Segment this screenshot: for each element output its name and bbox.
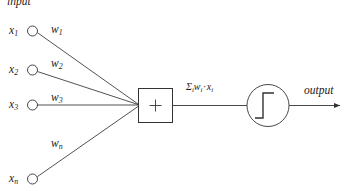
weight-label-w2-sub: 2: [59, 62, 63, 71]
weight-label-wn: wn: [51, 138, 63, 151]
input-label-x1: x1: [9, 25, 18, 38]
weight-label-wn-sub: n: [59, 142, 63, 151]
weight-label-w1-sub: 1: [59, 28, 63, 37]
weight-label-w2: w2: [51, 58, 63, 71]
weight-label-w3-var: w: [51, 91, 59, 103]
weight-label-w1: w1: [51, 24, 63, 37]
input-label-xn-sub: n: [14, 177, 18, 186]
formula-input-sub: i: [211, 86, 213, 93]
input-node-x1: [28, 26, 38, 36]
input-label-x1-sub: 1: [14, 29, 18, 38]
input-section-label: input: [7, 0, 31, 8]
activation-circle: [247, 85, 289, 127]
weight-label-w1-var: w: [51, 23, 59, 35]
weight-label-wn-var: w: [51, 137, 59, 149]
input-nodes: [28, 26, 38, 184]
weight-label-w3: w3: [51, 92, 63, 105]
input-label-x3: x3: [9, 99, 18, 112]
summation-formula: Σiwi·xi: [186, 82, 213, 94]
output-label-text: output: [304, 84, 333, 96]
input-node-x3: [28, 100, 38, 110]
weight-label-w2-var: w: [51, 57, 59, 69]
input-section-label-text: input: [7, 0, 31, 7]
weight-label-w3-sub: 3: [59, 96, 63, 105]
input-label-x2: x2: [9, 64, 18, 77]
input-label-x3-sub: 3: [14, 103, 18, 112]
input-label-xn: xn: [9, 173, 18, 186]
input-label-x2-sub: 2: [14, 68, 18, 77]
perceptron-diagram: input x1 x2 x3 xn w1 w2 w3 wn Σiwi·xi ou…: [0, 0, 348, 191]
output-label: output: [304, 85, 333, 97]
input-node-xn: [28, 174, 38, 184]
formula-weight-var: w: [194, 81, 201, 92]
input-node-x2: [28, 65, 38, 75]
